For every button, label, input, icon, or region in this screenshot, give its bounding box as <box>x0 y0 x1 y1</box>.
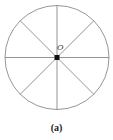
center-label: O <box>57 43 64 52</box>
figure-caption: (a) <box>0 122 113 133</box>
circle-diagram: O (a) <box>0 0 113 140</box>
circle-with-spokes <box>0 0 113 140</box>
center-point <box>55 55 60 60</box>
